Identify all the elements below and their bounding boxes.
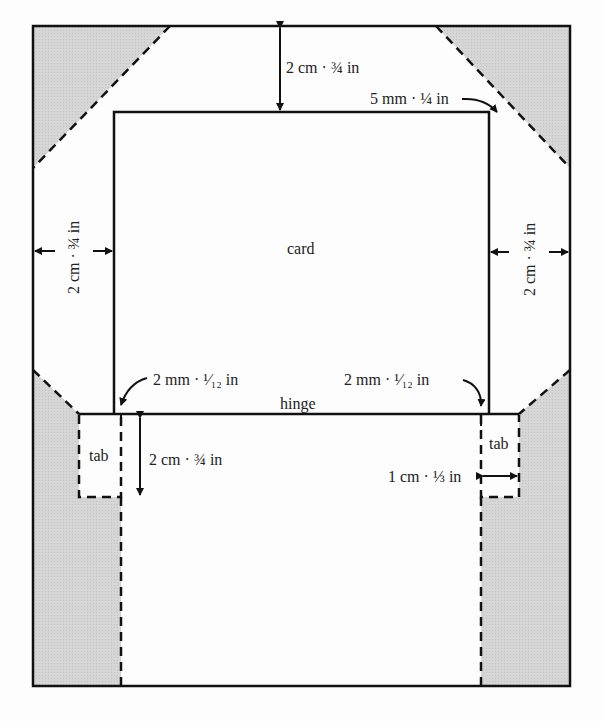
arrow-corner-offset — [462, 99, 497, 112]
label-corner-offset: 5 mm · ¼ in — [370, 91, 449, 107]
arrow-hinge-left-gap — [121, 378, 147, 405]
card-outline — [114, 112, 489, 414]
label-tab-right: tab — [489, 436, 509, 452]
label-card: card — [287, 241, 315, 257]
label-hinge-left-gap: 2 mm · ¹⁄₁₂ in — [153, 372, 238, 388]
label-top-margin: 2 cm · ¾ in — [286, 60, 359, 76]
arrow-hinge-right-gap — [463, 380, 481, 406]
label-hinge-right-gap: 2 mm · ¹⁄₁₂ in — [344, 372, 429, 388]
label-tab-height: 2 cm · ¾ in — [149, 452, 222, 468]
label-tab-width: 1 cm · ⅓ in — [388, 469, 461, 485]
label-tab-left: tab — [89, 448, 109, 464]
label-hinge: hinge — [280, 396, 316, 412]
label-right-margin: 2 cm · ¾ in — [522, 223, 538, 296]
shaded-side-right — [481, 370, 570, 686]
envelope-template-diagram — [0, 0, 604, 721]
label-left-margin: 2 cm · ¾ in — [66, 221, 82, 294]
tab-right-outline — [481, 415, 519, 497]
shaded-side-left — [33, 370, 121, 686]
